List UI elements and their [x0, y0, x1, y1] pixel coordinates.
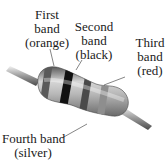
- label-fourth-band: Fourth band (silver): [2, 132, 64, 160]
- left-lead: [6, 66, 40, 86]
- leader-fourth: [62, 124, 87, 138]
- label-line: (silver): [2, 146, 64, 160]
- leader-first: [50, 49, 54, 66]
- label-line: band: [70, 34, 118, 48]
- label-line: Fourth band: [2, 132, 64, 146]
- label-line: (red): [130, 64, 168, 78]
- leader-third: [104, 77, 125, 85]
- label-line: Second: [70, 20, 118, 34]
- label-line: band: [130, 50, 168, 64]
- label-line: First: [16, 8, 78, 22]
- label-second-band: Second band (black): [70, 20, 118, 62]
- label-line: (black): [70, 48, 118, 62]
- label-first-band: First band (orange): [16, 8, 78, 50]
- label-line: Third: [130, 36, 168, 50]
- label-line: (orange): [16, 36, 78, 50]
- label-third-band: Third band (red): [130, 36, 168, 78]
- label-line: band: [16, 22, 78, 36]
